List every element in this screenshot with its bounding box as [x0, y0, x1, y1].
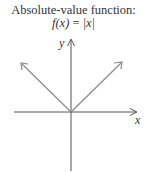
y-axis	[68, 39, 75, 171]
x-axis	[14, 109, 137, 116]
y-axis-label: y	[58, 36, 65, 50]
coordinate-plane: x y	[0, 0, 147, 172]
x-axis-label: x	[134, 113, 141, 127]
